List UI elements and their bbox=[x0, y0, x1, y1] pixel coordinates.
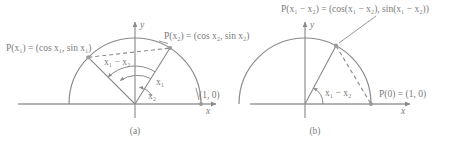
panel-a-caption: (a) bbox=[118, 127, 152, 137]
panel-b-arc-diff bbox=[314, 88, 324, 104]
panel-b-label-angle-diff: x₁ − x₂ bbox=[325, 89, 351, 99]
panel-a-label-chord-angle: x₁ − x₂ bbox=[104, 58, 130, 68]
panel-a: P(x₁) = (cos x₁, sin x₁) P(x₂) = (cos x₂… bbox=[0, 0, 260, 150]
panel-b-point-zero bbox=[369, 102, 373, 106]
panel-a-axis-y-label: y bbox=[140, 21, 144, 31]
panel-a-point-one-zero bbox=[199, 102, 203, 106]
panel-a-label-point-one-zero: (1, 0) bbox=[199, 91, 220, 101]
panel-a-label-angle-x1: x₁ bbox=[156, 78, 164, 88]
panel-a-axis-x-label: x bbox=[206, 107, 210, 117]
panel-a-label-point-x1: P(x₁) = (cos x₁, sin x₁) bbox=[6, 44, 91, 54]
panel-a-chord bbox=[88, 48, 170, 57]
panel-b-axis-y-label: y bbox=[310, 21, 314, 31]
panel-a-label-angle-x2: x₂ bbox=[148, 92, 156, 102]
panel-b: P(x₁ − x₂) = (cos(x₁ − x₂), sin(x₁ − x₂)… bbox=[255, 0, 470, 150]
panel-a-point-x2 bbox=[168, 46, 172, 50]
panel-b-point-diff bbox=[334, 44, 338, 48]
panel-b-axis-x-label: x bbox=[401, 107, 405, 117]
panel-b-graphic bbox=[255, 0, 470, 150]
panel-a-point-x1 bbox=[86, 55, 90, 59]
panel-a-label-point-x2: P(x₂) = (cos x₂, sin x₂) bbox=[164, 32, 249, 42]
panel-b-label-point-zero: P(0) = (1, 0) bbox=[379, 90, 426, 100]
panel-b-caption: (b) bbox=[298, 127, 332, 137]
panel-b-leader-diff bbox=[339, 16, 376, 43]
panel-b-label-point-diff: P(x₁ − x₂) = (cos(x₁ − x₂), sin(x₁ − x₂)… bbox=[281, 5, 429, 15]
figure-root: P(x₁) = (cos x₁, sin x₁) P(x₂) = (cos x₂… bbox=[0, 0, 470, 150]
